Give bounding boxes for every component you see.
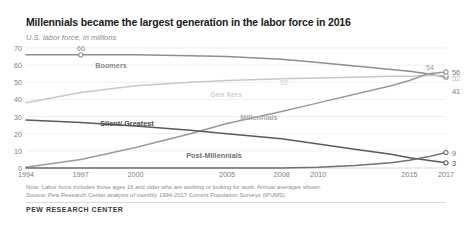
y-tick-70: 70 xyxy=(14,44,22,53)
y-tick-10: 10 xyxy=(14,146,22,155)
series-label-silent-greatest: Silent/ Greatest xyxy=(100,119,154,128)
brand-footer: PEW RESEARCH CENTER xyxy=(26,206,123,213)
point-label-millennials-upper: 54 xyxy=(426,63,434,72)
end-label-boomers: 41 xyxy=(452,87,460,96)
y-tick-60: 60 xyxy=(14,61,22,70)
y-axis-labels: 70 60 50 40 30 20 10 0 xyxy=(0,48,24,168)
series-label-boomers: Boomers xyxy=(95,61,127,70)
chart-source: Source: Pew Research Center analysis of … xyxy=(26,192,287,198)
y-tick-30: 30 xyxy=(14,112,22,121)
y-tick-20: 20 xyxy=(14,129,22,138)
marker-silent-end xyxy=(444,161,448,165)
series-label-millennials: Millennials xyxy=(240,113,277,122)
series-label-gen-xers: Gen Xers xyxy=(210,90,242,99)
marker-postmill-end xyxy=(444,150,448,154)
page-title: Millennials became the largest generatio… xyxy=(26,16,351,28)
x-tick-1997: 1997 xyxy=(73,170,89,179)
chart-note: Note: Labor force includes those ages 16… xyxy=(26,184,321,191)
plot-area: Boomers Gen Xers Millennials Silent/ Gre… xyxy=(26,48,446,168)
x-tick-2008: 2008 xyxy=(274,170,290,179)
y-tick-50: 50 xyxy=(14,78,22,87)
series-label-post-millennials: Post-Millennials xyxy=(186,151,242,160)
x-tick-2005: 2005 xyxy=(219,170,235,179)
footer-divider xyxy=(26,202,446,203)
x-tick-2010: 2010 xyxy=(310,170,326,179)
marker-millennials-end xyxy=(444,70,448,74)
point-label-boomers-start: 66 xyxy=(77,44,85,53)
x-tick-2015: 2015 xyxy=(402,170,418,179)
x-axis-labels: 1994 1997 2000 2005 2008 2010 2015 2017 xyxy=(0,170,473,182)
x-tick-1994: 1994 xyxy=(18,170,34,179)
marker-boomers-start xyxy=(79,53,83,57)
chart-page: Millennials became the largest generatio… xyxy=(0,0,473,228)
end-label-genxers: 52 xyxy=(452,73,460,82)
end-label-post-millennials: 9 xyxy=(452,148,456,157)
y-tick-40: 40 xyxy=(14,95,22,104)
series-line-boomers xyxy=(26,55,446,77)
point-label-genx-mid: 52 xyxy=(280,78,288,87)
x-tick-2000: 2000 xyxy=(128,170,144,179)
chart-subtitle: U.S. labor force, in millions xyxy=(26,33,116,42)
end-label-silent-greatest: 3 xyxy=(452,159,456,168)
x-tick-2017: 2017 xyxy=(438,170,454,179)
